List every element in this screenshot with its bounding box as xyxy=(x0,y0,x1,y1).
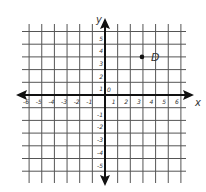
point-d-label: D xyxy=(151,51,159,64)
y-axis-label: y xyxy=(95,14,103,25)
x-tick-label: 4 xyxy=(150,98,154,105)
y-tick-label: 4 xyxy=(99,47,103,54)
x-tick-label: -1 xyxy=(86,98,92,105)
y-tick-label: 2 xyxy=(99,73,103,80)
origin-label: 0 xyxy=(107,86,111,93)
x-tick-label: -6 xyxy=(23,98,29,105)
x-tick-label: -2 xyxy=(74,98,80,105)
y-tick-label: 1 xyxy=(99,85,103,92)
point-d-marker xyxy=(140,55,145,60)
x-tick-label: -4 xyxy=(48,98,54,105)
coordinate-plane: x y 0 -6-5-4-3-2-1123456 54321-1-2-3-4-5… xyxy=(0,0,206,192)
y-tick-label: -2 xyxy=(97,123,103,130)
x-tick-label: 5 xyxy=(162,98,166,105)
y-tick-label: 3 xyxy=(99,60,103,67)
x-tick-label: -3 xyxy=(61,98,67,105)
y-tick-label: 5 xyxy=(99,35,103,42)
x-tick-label: 2 xyxy=(124,98,128,105)
axes xyxy=(16,18,194,186)
x-tick-label: 6 xyxy=(175,98,179,105)
coordinate-grid: x y 0 -6-5-4-3-2-1123456 54321-1-2-3-4-5… xyxy=(0,0,206,192)
x-tick-label: 1 xyxy=(112,98,116,105)
x-tick-label: 3 xyxy=(137,98,141,105)
x-tick-label: -5 xyxy=(36,98,42,105)
y-tick-label: -1 xyxy=(97,111,103,118)
x-axis-label: x xyxy=(194,97,201,108)
y-tick-label: -4 xyxy=(97,149,103,156)
y-tick-label: -5 xyxy=(97,162,103,169)
y-tick-labels: 54321-1-2-3-4-5 xyxy=(97,35,103,169)
y-tick-label: -3 xyxy=(97,136,103,143)
